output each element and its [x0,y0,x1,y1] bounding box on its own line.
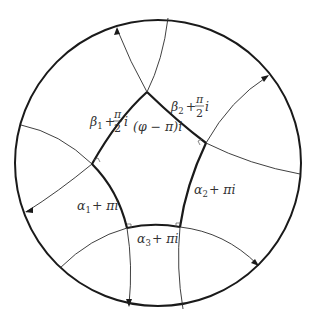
svg-text:β1+: β1+ [89,114,115,131]
poincare-disk-diagram: β1+ π 2 i β2+ π 2 i (φ − π)i α1+ πi α2+ … [0,0,315,328]
label-alpha3: α3+ πi [137,231,179,248]
svg-text:π: π [195,93,204,106]
geodesic-top-left-extension [117,29,147,92]
svg-text:i: i [124,114,128,129]
geodesic-left-upper [21,125,92,164]
label-beta2: β2+ π 2 i [170,93,209,120]
geodesic-top-right-extension [147,18,168,92]
svg-text:π: π [113,108,122,121]
svg-text:β2+: β2+ [170,99,196,116]
label-phi: (φ − π)i [133,119,182,134]
geodesic-bottom-right-arrow [180,227,258,265]
arrowhead-top-icon [114,27,120,35]
label-alpha2: α2+ πi [194,182,236,199]
arrowhead-left-icon [25,207,33,213]
geodesic-bottom-right-down [179,227,183,309]
edge-alpha3 [127,225,180,228]
disk-boundary [15,20,301,306]
geodesic-right-upper-arrow [206,76,268,143]
svg-text:2: 2 [196,107,203,120]
svg-text:2: 2 [114,122,121,135]
edge-alpha1 [92,164,127,228]
svg-text:i: i [205,99,209,114]
geodesic-bottom-left [60,228,127,268]
label-alpha1: α1+ πi [77,198,119,215]
label-beta1: β1+ π 2 i [89,108,128,135]
geodesic-bottom-left-arrow [127,228,131,305]
arrowhead-right-upper-icon [261,75,269,82]
geodesic-right-lower [206,143,300,174]
